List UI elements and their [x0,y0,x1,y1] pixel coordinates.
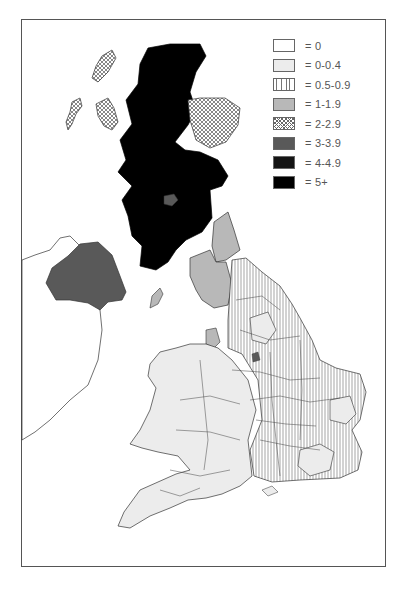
legend-swatch-light-grey [273,59,295,72]
region-wales-midlands-southwest [118,344,256,528]
region-isle-of-wight [262,486,278,496]
legend-label: = 0-0.4 [305,59,341,71]
legend-label: = 0.5-0.9 [305,79,351,91]
legend-item-6: = 4-4.9 [273,153,351,173]
region-shetland [92,50,116,82]
legend-item-2: = 0.5-0.9 [273,75,351,95]
region-scotland [118,44,228,270]
legend-item-3: = 1-1.9 [273,95,351,115]
legend-label: = 5+ [305,176,328,188]
legend-swatch-vertical-hatch [273,78,295,91]
region-orkney-skye [96,98,118,130]
legend-label: = 0 [305,40,321,52]
legend-item-0: = 0 [273,36,351,56]
legend-swatch-black [273,176,295,189]
legend-swatch-mid-grey [273,98,295,111]
legend-swatch-near-black [273,156,295,169]
legend-item-4: = 2-2.9 [273,114,351,134]
region-isle-of-man [150,288,163,308]
legend-label: = 2-2.9 [305,118,341,130]
legend-item-1: = 0-0.4 [273,56,351,76]
region-northumberland [212,212,240,262]
region-grampian [188,98,240,148]
legend-swatch-dark-grey [273,137,295,150]
region-western-isles [66,98,82,130]
legend: = 0 = 0-0.4 = 0.5-0.9 = 1-1.9 = 2-2.9 = … [273,36,351,192]
legend-label: = 1-1.9 [305,98,341,110]
legend-label: = 3-3.9 [305,137,341,149]
legend-swatch-crosshatch [273,117,295,130]
legend-swatch-white [273,39,295,52]
legend-item-7: = 5+ [273,173,351,193]
legend-item-5: = 3-3.9 [273,134,351,154]
legend-label: = 4-4.9 [305,157,341,169]
